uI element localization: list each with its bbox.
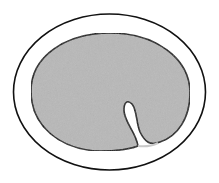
inner-body [31,33,190,151]
diagram-canvas [0,0,219,183]
diagram-figure [0,0,219,183]
